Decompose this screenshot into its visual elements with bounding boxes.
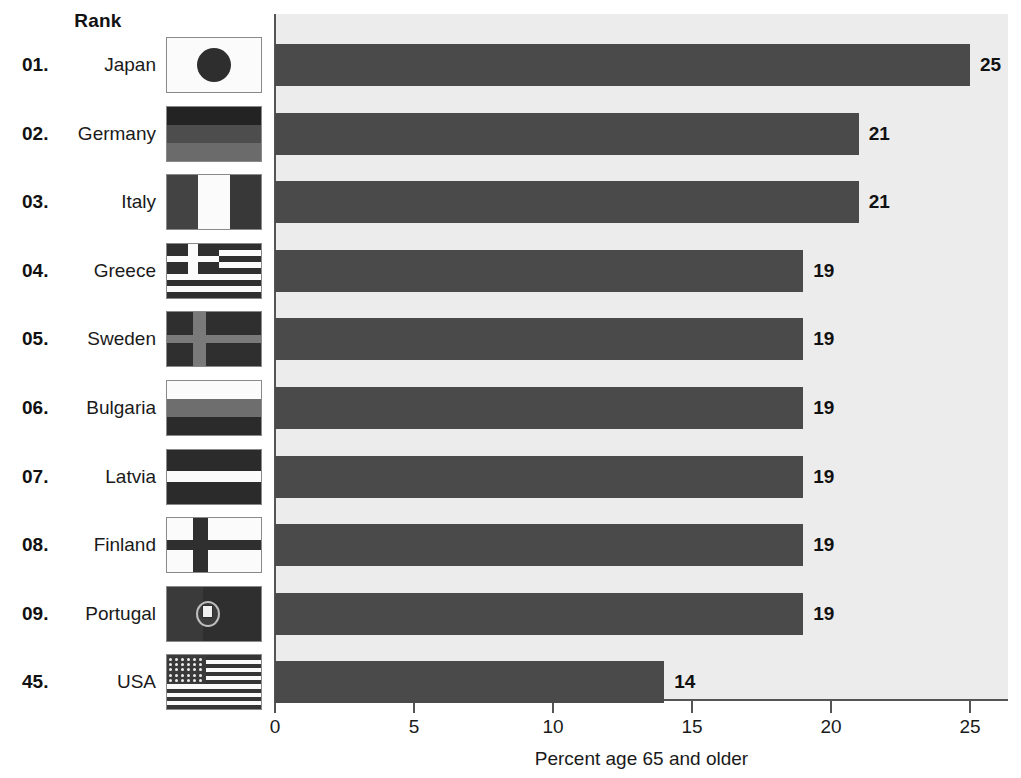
bar-latvia xyxy=(275,456,803,498)
x-tick xyxy=(969,701,971,713)
rank-number: 01. xyxy=(0,54,62,76)
row-label-portugal: 09.Portugal xyxy=(0,585,262,643)
rank-header: Rank xyxy=(38,10,158,32)
bar-value-label: 14 xyxy=(674,661,695,703)
country-name: Germany xyxy=(62,123,166,145)
bar-sweden xyxy=(275,318,803,360)
flag-sweden-icon xyxy=(166,311,262,367)
bar-value-label: 21 xyxy=(869,113,890,155)
bar-usa xyxy=(275,661,664,703)
flag-finland-icon xyxy=(166,517,262,573)
x-tick-label: 5 xyxy=(409,716,420,738)
flag-italy-icon xyxy=(166,174,262,230)
flag-germany-icon xyxy=(166,106,262,162)
row-label-greece: 04.Greece xyxy=(0,242,262,300)
flag-greece-icon xyxy=(166,243,262,299)
row-label-germany: 02.Germany xyxy=(0,105,262,163)
bar-greece xyxy=(275,250,803,292)
bar-value-label: 19 xyxy=(813,250,834,292)
flag-bulgaria-icon xyxy=(166,380,262,436)
x-tick-label: 0 xyxy=(270,716,281,738)
rank-number: 04. xyxy=(0,260,62,282)
country-name: Japan xyxy=(62,54,166,76)
rank-number: 07. xyxy=(0,466,62,488)
bar-value-label: 25 xyxy=(980,44,1001,86)
flag-latvia-icon xyxy=(166,449,262,505)
row-label-bulgaria: 06.Bulgaria xyxy=(0,379,262,437)
rank-number: 09. xyxy=(0,603,62,625)
bar-italy xyxy=(275,181,859,223)
country-name: Sweden xyxy=(62,328,166,350)
bar-value-label: 19 xyxy=(813,456,834,498)
bar-japan xyxy=(275,44,970,86)
row-label-finland: 08.Finland xyxy=(0,516,262,574)
x-tick-label: 15 xyxy=(681,716,702,738)
country-name: Bulgaria xyxy=(62,397,166,419)
bar-germany xyxy=(275,113,859,155)
x-tick-label: 25 xyxy=(959,716,980,738)
bar-value-label: 19 xyxy=(813,387,834,429)
row-label-italy: 03.Italy xyxy=(0,173,262,231)
row-label-sweden: 05.Sweden xyxy=(0,310,262,368)
bar-portugal xyxy=(275,593,803,635)
bar-value-label: 21 xyxy=(869,181,890,223)
bar-finland xyxy=(275,524,803,566)
country-name: Latvia xyxy=(62,466,166,488)
x-tick-label: 20 xyxy=(820,716,841,738)
country-name: Greece xyxy=(62,260,166,282)
country-name: USA xyxy=(62,671,166,693)
rank-number: 03. xyxy=(0,191,62,213)
country-name: Portugal xyxy=(62,603,166,625)
row-label-usa: 45.USA xyxy=(0,653,262,711)
rank-number: 02. xyxy=(0,123,62,145)
flag-portugal-icon xyxy=(166,586,262,642)
x-tick-label: 10 xyxy=(542,716,563,738)
bar-value-label: 19 xyxy=(813,524,834,566)
row-label-japan: 01.Japan xyxy=(0,36,262,94)
rank-number: 45. xyxy=(0,671,62,693)
x-axis-title: Percent age 65 and older xyxy=(275,748,1008,770)
rank-number: 05. xyxy=(0,328,62,350)
flag-japan-icon xyxy=(166,37,262,93)
country-name: Italy xyxy=(62,191,166,213)
x-tick xyxy=(830,701,832,713)
bar-value-label: 19 xyxy=(813,318,834,360)
rank-number: 08. xyxy=(0,534,62,556)
bar-chart: Rank 01.Japan02.Germany03.Italy04.Greece… xyxy=(0,0,1021,778)
row-label-column: Rank 01.Japan02.Germany03.Italy04.Greece… xyxy=(0,0,262,700)
rank-number: 06. xyxy=(0,397,62,419)
bar-bulgaria xyxy=(275,387,803,429)
country-name: Finland xyxy=(62,534,166,556)
row-label-latvia: 07.Latvia xyxy=(0,448,262,506)
bar-value-label: 19 xyxy=(813,593,834,635)
flag-usa-icon xyxy=(166,654,262,710)
